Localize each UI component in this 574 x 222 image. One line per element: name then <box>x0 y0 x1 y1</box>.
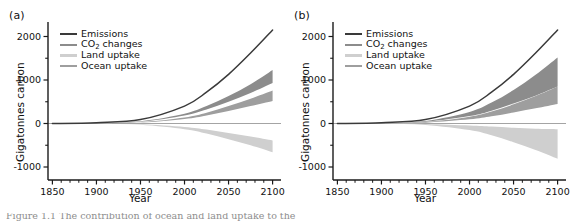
panel-b: (b) Gigatonnes carbon Year EmissionsCO2 … <box>285 0 569 205</box>
x-tick-label: 2050 <box>494 186 534 197</box>
y-tick-label: 1000 <box>0 74 41 85</box>
legend-item-ocean-uptake: Ocean uptake <box>60 61 147 72</box>
y-tick-label: -1000 <box>285 161 326 172</box>
legend-swatch-co2-changes <box>60 44 77 46</box>
y-tick-label: 2000 <box>0 31 41 42</box>
band-land-uptake <box>52 124 272 153</box>
x-tick-label: 1850 <box>32 186 72 197</box>
data-bands <box>52 70 272 152</box>
y-tick-label: 0 <box>285 118 326 129</box>
y-tick-label: 2000 <box>285 31 326 42</box>
band-land-uptake <box>337 124 557 159</box>
x-tick-label: 1900 <box>361 186 401 197</box>
figure-caption-text: Figure 1.1 The contribution of ocean and… <box>6 213 295 221</box>
x-tick-label: 2050 <box>209 186 249 197</box>
y-tick-label: 1000 <box>285 74 326 85</box>
data-bands <box>337 57 557 158</box>
legend-swatch-land-uptake <box>345 54 362 56</box>
panel-b-legend: EmissionsCO2 changesLand uptakeOcean upt… <box>345 29 432 71</box>
legend-swatch-ocean-uptake <box>345 65 362 67</box>
panel-a-tag: (a) <box>9 9 25 22</box>
legend-swatch-emissions <box>345 33 362 35</box>
legend-swatch-emissions <box>60 33 77 35</box>
legend-item-ocean-uptake: Ocean uptake <box>345 61 432 72</box>
x-tick-label: 2000 <box>450 186 490 197</box>
panel-b-tag: (b) <box>294 9 310 22</box>
legend-label: Ocean uptake <box>81 61 147 72</box>
legend-swatch-ocean-uptake <box>60 65 77 67</box>
y-tick-label: -1000 <box>0 161 41 172</box>
x-tick-label: 2000 <box>165 186 205 197</box>
x-tick-label: 1900 <box>76 186 116 197</box>
figure-caption-clipped: Figure 1.1 The contribution of ocean and… <box>0 213 569 222</box>
x-tick-label: 1950 <box>120 186 160 197</box>
x-tick-label: 1950 <box>405 186 445 197</box>
legend-swatch-land-uptake <box>60 54 77 56</box>
x-tick-label: 2100 <box>538 186 574 197</box>
y-tick-label: 0 <box>0 118 41 129</box>
panel-a: (a) Gigatonnes carbon Year EmissionsCO2 … <box>0 0 284 205</box>
band-co2-changes <box>52 70 272 124</box>
panel-a-legend: EmissionsCO2 changesLand uptakeOcean upt… <box>60 29 147 71</box>
legend-label: Ocean uptake <box>366 61 432 72</box>
x-tick-label: 1850 <box>317 186 357 197</box>
legend-swatch-co2-changes <box>345 44 362 46</box>
